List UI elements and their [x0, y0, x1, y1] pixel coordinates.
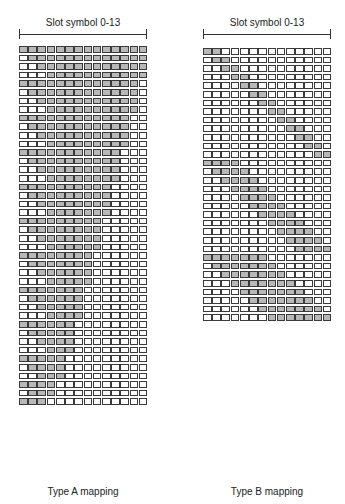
symbol-cell [47, 166, 56, 173]
symbol-cell [268, 246, 277, 253]
symbol-cell [314, 177, 323, 184]
symbol-cell [231, 177, 240, 184]
symbol-cell [277, 74, 286, 81]
symbol-cell [28, 261, 37, 268]
symbol-cell [74, 209, 83, 216]
symbol-cell [277, 194, 286, 201]
symbol-cell [268, 297, 277, 304]
symbol-cell [212, 211, 221, 218]
symbol-cell [203, 203, 212, 210]
symbol-cell [221, 82, 230, 89]
symbol-cell [268, 254, 277, 261]
symbol-cell [268, 306, 277, 313]
symbol-cell [268, 160, 277, 167]
symbol-cell [47, 295, 56, 302]
symbol-cell [47, 330, 56, 337]
symbol-cell [37, 355, 46, 362]
symbol-cell [84, 149, 93, 156]
symbol-cell [295, 314, 304, 321]
allocation-row [19, 209, 148, 216]
symbol-cell [212, 177, 221, 184]
symbol-cell [37, 218, 46, 225]
symbol-cell [56, 364, 65, 371]
symbol-cell [47, 55, 56, 62]
symbol-cell [323, 160, 332, 167]
allocation-row [203, 194, 332, 201]
symbol-cell [203, 246, 212, 253]
symbol-cell [102, 252, 111, 259]
symbol-cell [139, 381, 148, 388]
symbol-cell [130, 46, 139, 53]
symbol-cell [37, 364, 46, 371]
symbol-cell [84, 46, 93, 53]
symbol-cell [84, 304, 93, 311]
symbol-cell [111, 158, 120, 165]
symbol-cell [295, 254, 304, 261]
symbol-cell [249, 168, 258, 175]
symbol-cell [323, 65, 332, 72]
symbol-cell [221, 246, 230, 253]
symbol-cell [74, 235, 83, 242]
symbol-cell [93, 261, 102, 268]
allocation-row [203, 297, 332, 304]
symbol-cell [93, 390, 102, 397]
symbol-cell [249, 297, 258, 304]
symbol-cell [212, 289, 221, 296]
symbol-cell [47, 141, 56, 148]
symbol-cell [314, 48, 323, 55]
symbol-cell [203, 314, 212, 321]
symbol-cell [37, 252, 46, 259]
symbol-cell [65, 235, 74, 242]
symbol-cell [231, 306, 240, 313]
symbol-cell [130, 141, 139, 148]
symbol-cell [286, 74, 295, 81]
symbol-cell [28, 330, 37, 337]
allocation-row [203, 186, 332, 193]
symbol-cell [295, 228, 304, 235]
symbol-cell [221, 108, 230, 115]
allocation-row [19, 252, 148, 259]
symbol-cell [323, 82, 332, 89]
symbol-cell [221, 160, 230, 167]
symbol-cell [47, 123, 56, 130]
symbol-cell [84, 209, 93, 216]
symbol-cell [120, 149, 129, 156]
symbol-cell [139, 398, 148, 405]
symbol-cell [65, 89, 74, 96]
symbol-cell [286, 117, 295, 124]
symbol-cell [295, 263, 304, 270]
symbol-cell [231, 289, 240, 296]
symbol-cell [212, 280, 221, 287]
symbol-cell [19, 355, 28, 362]
symbol-cell [19, 295, 28, 302]
symbol-cell [304, 177, 313, 184]
symbol-cell [56, 381, 65, 388]
symbol-cell [130, 209, 139, 216]
symbol-cell [120, 89, 129, 96]
symbol-cell [56, 80, 65, 87]
symbol-cell [258, 177, 267, 184]
symbol-cell [102, 381, 111, 388]
symbol-cell [19, 398, 28, 405]
symbol-cell [258, 211, 267, 218]
symbol-cell [323, 246, 332, 253]
symbol-cell [231, 203, 240, 210]
allocation-row [19, 287, 148, 294]
symbol-cell [111, 166, 120, 173]
symbol-cell [277, 306, 286, 313]
symbol-cell [203, 306, 212, 313]
symbol-cell [268, 220, 277, 227]
symbol-cell [37, 373, 46, 380]
symbol-cell [102, 244, 111, 251]
symbol-cell [212, 57, 221, 64]
symbol-cell [212, 220, 221, 227]
symbol-cell [295, 280, 304, 287]
symbol-cell [304, 203, 313, 210]
symbol-cell [102, 89, 111, 96]
symbol-cell [221, 186, 230, 193]
allocation-row [19, 235, 148, 242]
symbol-cell [28, 398, 37, 405]
symbol-cell [258, 297, 267, 304]
symbol-cell [258, 117, 267, 124]
symbol-cell [212, 254, 221, 261]
